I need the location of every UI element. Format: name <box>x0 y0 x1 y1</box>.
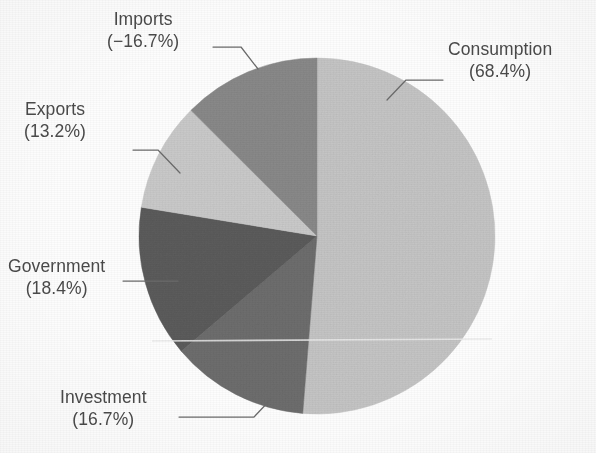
slice-label-investment-name: Investment <box>60 386 147 408</box>
slice-label-government: Government (18.4%) <box>8 255 105 300</box>
pie-slice-consumption[interactable] <box>303 58 495 414</box>
slice-label-exports: Exports (13.2%) <box>24 98 86 143</box>
slice-label-imports-value: (−16.7%) <box>107 30 179 52</box>
slice-label-imports-name: Imports <box>107 8 179 30</box>
pie-chart-figure: Consumption (68.4%) Imports (−16.7%) Exp… <box>0 0 596 453</box>
slice-label-government-name: Government <box>8 255 105 277</box>
slice-label-exports-value: (13.2%) <box>24 120 86 142</box>
slice-label-government-value: (18.4%) <box>8 277 105 299</box>
slice-label-exports-name: Exports <box>24 98 86 120</box>
slice-label-consumption-value: (68.4%) <box>448 60 552 82</box>
slice-label-consumption: Consumption (68.4%) <box>448 38 552 83</box>
pie-slices-group <box>139 58 495 414</box>
slice-label-imports: Imports (−16.7%) <box>107 8 179 53</box>
slice-label-investment-value: (16.7%) <box>60 408 147 430</box>
slice-label-investment: Investment (16.7%) <box>60 386 147 431</box>
slice-label-consumption-name: Consumption <box>448 38 552 60</box>
